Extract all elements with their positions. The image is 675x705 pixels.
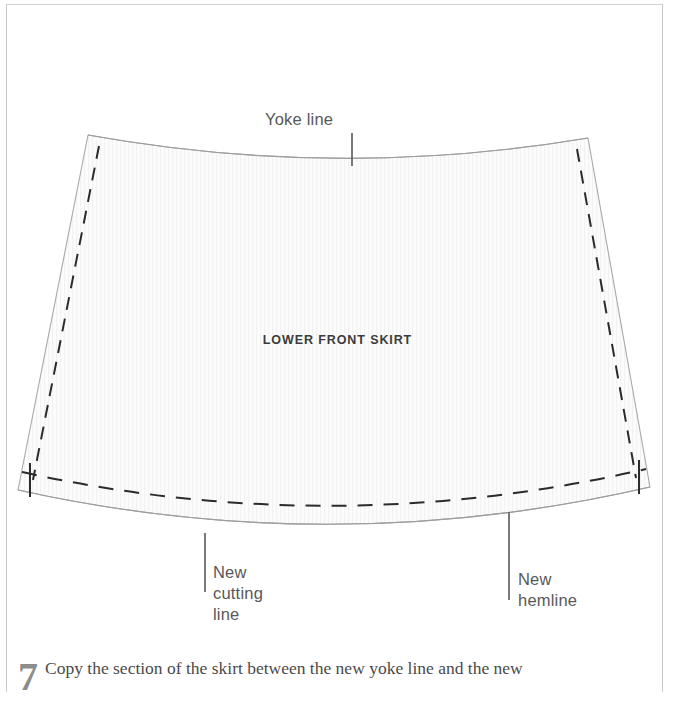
- step-number: 7: [18, 659, 38, 695]
- step-caption-text: Copy the section of the skirt between th…: [18, 655, 658, 681]
- yoke-line-label: Yoke line: [265, 109, 333, 130]
- step-caption: 7 Copy the section of the skirt between …: [18, 655, 658, 695]
- page: Yoke line New cutting line New hemline L…: [0, 0, 675, 705]
- new-cutting-line-label: New cutting line: [213, 562, 263, 625]
- new-hemline-label: New hemline: [518, 569, 577, 611]
- skirt-pattern-diagram: [0, 0, 675, 660]
- lower-front-skirt-label: LOWER FRONT SKIRT: [0, 333, 675, 347]
- skirt-piece-shape: [18, 135, 650, 524]
